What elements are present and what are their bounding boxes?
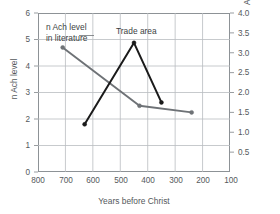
trade-area-annotation: Trade area bbox=[116, 26, 157, 37]
y-axis-right-title-line2: of square miles bbox=[253, 0, 263, 20]
y-left-tick-6: 6 bbox=[0, 9, 30, 18]
y-right-tick-0-5: 0.5 bbox=[238, 148, 268, 157]
y-left-tick-1: 1 bbox=[0, 141, 30, 150]
y-right-tick-3-0: 3.0 bbox=[238, 49, 268, 58]
n-ach-annotation-line1: n Ach level bbox=[46, 22, 87, 33]
y-axis-left-title: n Ach level bbox=[9, 29, 19, 129]
y-right-tick-2-5: 2.5 bbox=[238, 68, 268, 77]
y-right-tick-1-0: 1.0 bbox=[238, 128, 268, 137]
x-tick-500: 500 bbox=[106, 176, 136, 185]
x-tick-800: 800 bbox=[23, 176, 53, 185]
x-tick-200: 200 bbox=[188, 176, 218, 185]
x-tick-400: 400 bbox=[133, 176, 163, 185]
x-tick-100: 100 bbox=[216, 176, 246, 185]
y-right-tick-2-0: 2.0 bbox=[238, 88, 268, 97]
y-right-tick-1-5: 1.5 bbox=[238, 108, 268, 117]
x-tick-700: 700 bbox=[51, 176, 81, 185]
y-axis-right-title: Athenian trade area in millions of squar… bbox=[243, 0, 269, 20]
y-axis-right-title-line1: Athenian trade area in millions bbox=[243, 0, 253, 20]
x-axis-title: Years before Christ bbox=[38, 196, 230, 206]
y-right-tick-3-5: 3.5 bbox=[238, 29, 268, 38]
x-tick-300: 300 bbox=[161, 176, 191, 185]
chart-figure: 6 5 4 3 2 1 0 4.0 3.5 3.0 2.5 2.0 1.5 1.… bbox=[0, 0, 280, 214]
x-tick-600: 600 bbox=[78, 176, 108, 185]
n-ach-annotation-line2: in literature bbox=[46, 33, 87, 44]
n-ach-annotation: n Ach level in literature bbox=[46, 22, 87, 43]
